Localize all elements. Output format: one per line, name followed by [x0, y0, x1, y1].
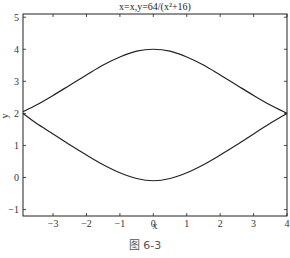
figure-caption: 图 6-3	[0, 236, 290, 252]
y-axis-label: y	[0, 114, 10, 119]
series-line-upper	[23, 49, 287, 113]
y-tick-label: 2	[14, 108, 19, 119]
chart: x=x,y=64/(x²+16) −3−2−101234−1012345 x y	[0, 0, 290, 258]
plot-frame	[23, 14, 287, 216]
y-tick-label: −1	[8, 204, 19, 215]
series-line-lower	[23, 113, 287, 180]
x-tick-label: 4	[285, 218, 290, 229]
series-group	[23, 49, 287, 180]
y-tick-label: 5	[14, 12, 19, 23]
chart-title: x=x,y=64/(x²+16)	[119, 1, 191, 13]
axis-ticks: −3−2−101234−1012345	[8, 12, 289, 229]
y-tick-label: 4	[14, 44, 19, 55]
x-tick-label: 1	[184, 218, 189, 229]
x-tick-label: −3	[48, 218, 59, 229]
x-tick-label: 3	[251, 218, 256, 229]
x-tick-label: −1	[115, 218, 126, 229]
y-tick-label: 1	[14, 140, 19, 151]
x-tick-label: −2	[81, 218, 92, 229]
y-tick-label: 0	[14, 172, 19, 183]
y-tick-label: 3	[14, 76, 19, 87]
x-tick-label: 2	[218, 218, 223, 229]
x-axis-label: x	[153, 220, 158, 231]
